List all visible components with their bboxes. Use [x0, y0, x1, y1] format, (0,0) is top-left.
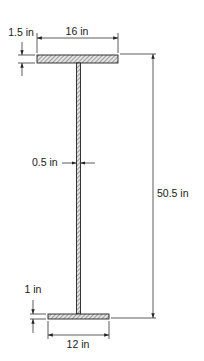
web	[77, 63, 81, 314]
bottom-flange-width-dimension	[48, 321, 109, 339]
top-flange-width-label: 16 in	[66, 25, 89, 37]
web-thickness-label: 0.5 in	[32, 156, 58, 168]
bottom-flange-thickness-label: 1 in	[25, 283, 42, 295]
top-flange	[37, 55, 118, 63]
bottom-flange-width-label: 12 in	[67, 338, 90, 350]
i-beam-diagram: 16 in 1.5 in 0.5 in 50.5 in 1 in 12 in	[0, 0, 204, 361]
top-flange-thickness-label: 1.5 in	[8, 26, 34, 38]
bottom-flange	[48, 314, 109, 319]
overall-height-dimension	[111, 54, 156, 318]
top-flange-thickness-dimension	[18, 42, 35, 76]
bottom-flange-thickness-dimension	[30, 300, 46, 333]
overall-height-label: 50.5 in	[157, 187, 189, 199]
